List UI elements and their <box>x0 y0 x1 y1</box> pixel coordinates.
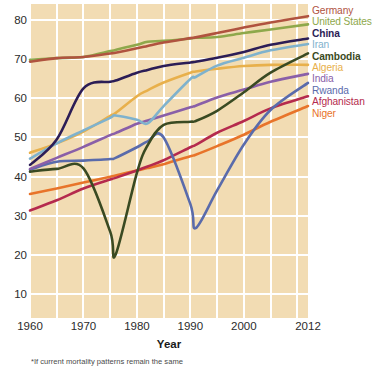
legend: GermanyUnited StatesChinaIranCambodiaAlg… <box>312 5 382 119</box>
legend-item-iran[interactable]: Iran <box>312 39 382 50</box>
y-axis-tick-label: 30 <box>1 210 27 222</box>
x-axis-tick-label: 1990 <box>178 320 204 332</box>
series-lines <box>30 4 308 318</box>
life-expectancy-line-chart: 1020304050607080 19601970198019902000201… <box>0 0 382 368</box>
y-axis: 1020304050607080 <box>0 4 27 318</box>
legend-item-niger[interactable]: Niger <box>312 108 382 119</box>
x-axis-tick-label: 2012 <box>295 320 321 332</box>
legend-item-germany[interactable]: Germany <box>312 5 382 16</box>
x-axis: 196019701980199020002012 <box>30 320 308 336</box>
legend-item-cambodia[interactable]: Cambodia <box>312 51 382 62</box>
x-axis-tick-label: 1970 <box>71 320 97 332</box>
legend-item-afghanistan[interactable]: Afghanistan <box>312 96 382 107</box>
y-axis-tick-label: 60 <box>1 92 27 104</box>
y-axis-tick-label: 70 <box>1 53 27 65</box>
legend-item-china[interactable]: China <box>312 28 382 39</box>
chart-footnote: *If current mortality patterns remain th… <box>31 357 361 366</box>
legend-item-india[interactable]: India <box>312 73 382 84</box>
x-axis-tick-label: 1980 <box>124 320 150 332</box>
y-axis-tick-label: 50 <box>1 131 27 143</box>
series-line-iran <box>30 44 308 159</box>
series-line-rwanda <box>30 83 308 229</box>
x-axis-title: Year <box>30 338 308 350</box>
y-axis-tick-label: 20 <box>1 249 27 261</box>
x-axis-tick-label: 2000 <box>231 320 257 332</box>
legend-item-united-states[interactable]: United States <box>312 16 382 27</box>
y-axis-tick-label: 10 <box>1 288 27 300</box>
y-axis-tick-label: 40 <box>1 171 27 183</box>
series-line-germany <box>30 16 308 62</box>
x-axis-tick-label: 1960 <box>17 320 43 332</box>
plot-area <box>30 4 308 318</box>
y-axis-tick-label: 80 <box>1 14 27 26</box>
legend-item-algeria[interactable]: Algeria <box>312 62 382 73</box>
series-line-india <box>30 74 308 169</box>
legend-item-rwanda[interactable]: Rwanda <box>312 85 382 96</box>
